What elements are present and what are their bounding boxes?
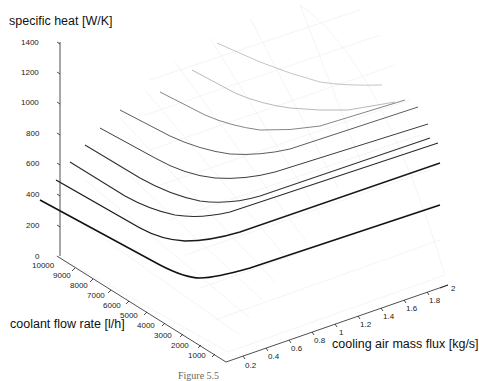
z-tick: 400 <box>26 190 39 199</box>
y-tick: 4000 <box>137 321 155 330</box>
z-tick: 1400 <box>21 38 39 47</box>
x-tick: 0.8 <box>314 336 325 345</box>
contour-2 <box>56 163 440 241</box>
y-tick: 7000 <box>87 291 105 300</box>
contour-9 <box>192 70 395 110</box>
y-axis <box>60 258 226 362</box>
y-tick: 3000 <box>154 331 172 340</box>
y-tick: 10000 <box>32 261 54 270</box>
contour-6 <box>120 107 418 154</box>
y-tick: 1000 <box>188 351 206 360</box>
z-tick: 1200 <box>21 68 39 77</box>
x-tick: 1.8 <box>429 296 440 305</box>
z-tick: 800 <box>26 129 39 138</box>
x-tick: 1.2 <box>360 320 371 329</box>
figure-caption: Figure 5.5 <box>178 370 219 381</box>
z-tick: 600 <box>26 159 39 168</box>
y-tick: 9000 <box>53 271 71 280</box>
z-axis-title: specific heat [W/K] <box>9 14 113 28</box>
z-tick: 200 <box>26 221 39 230</box>
x-tick: 0.6 <box>291 344 302 353</box>
contour-5 <box>100 124 428 178</box>
y-tick: 6000 <box>103 301 121 310</box>
x-tick: 1 <box>339 328 343 337</box>
surface-grid <box>55 5 445 352</box>
x-axis-title: cooling air mass flux [kg/s] <box>332 337 479 351</box>
z-axis <box>57 42 60 258</box>
y-tick: 2000 <box>171 341 189 350</box>
x-tick: 0.2 <box>245 361 256 370</box>
y-tick: 8000 <box>70 281 88 290</box>
z-tick: 1000 <box>21 98 39 107</box>
y-axis-title: coolant flow rate [l/h] <box>10 317 125 331</box>
contour-lines <box>40 43 440 278</box>
x-tick: 0.4 <box>268 352 279 361</box>
x-tick: 1.4 <box>383 312 394 321</box>
contour-1 <box>40 200 440 278</box>
z-tick: 0 <box>35 252 39 261</box>
y-tick: 5000 <box>120 311 138 320</box>
x-tick: 1.6 <box>406 304 417 313</box>
x-tick: 2 <box>451 284 455 293</box>
contour-7 <box>160 92 405 130</box>
